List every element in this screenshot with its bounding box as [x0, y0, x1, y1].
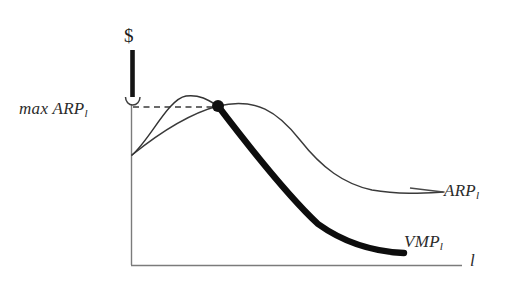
vmp-curve-label: VMPl — [404, 233, 443, 250]
economics-diagram — [0, 0, 512, 302]
x-axis-label: l — [470, 252, 475, 269]
arp-label-leader-line — [410, 188, 443, 192]
max-arp-intersection-point — [212, 100, 224, 112]
arp-curve-label-subscript: l — [476, 189, 479, 201]
arp-curve — [132, 103, 444, 193]
max-arp-label-subscript: l — [85, 107, 88, 119]
y-axis-label: $ — [124, 26, 134, 45]
max-arp-label: max ARPl — [19, 100, 88, 117]
vmp-curve-label-text: VMP — [404, 232, 440, 251]
figure-canvas: $ max ARPl ARPl VMPl l — [0, 0, 512, 302]
vmp-curve-label-subscript: l — [440, 240, 443, 252]
max-arp-label-text: max ARP — [19, 99, 85, 118]
text-cursor-hook-icon — [126, 97, 141, 105]
arp-curve-label-text: ARP — [444, 181, 476, 200]
arp-curve-label: ARPl — [444, 182, 479, 199]
vmp-curve-thick-segment — [218, 106, 404, 253]
